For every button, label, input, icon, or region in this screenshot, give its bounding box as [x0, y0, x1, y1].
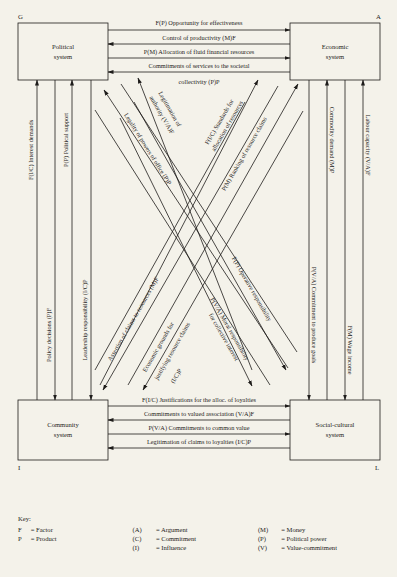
key-meaning: [31, 543, 133, 552]
corner-l: L: [375, 464, 379, 471]
key-meaning: = Political power: [281, 534, 388, 543]
key-row: F = Factor (A) = Argument (M) = Money: [18, 525, 388, 534]
bottom-label-2: Commitments to valued association (V/A)F: [144, 410, 255, 418]
diag-pol-sc-4: [138, 78, 252, 370]
community-system-label-1: Community: [47, 421, 79, 428]
key-row: P = Product (C) = Commitment (P) = Polit…: [18, 534, 388, 543]
left-label-2: Policy decisions (P)F: [45, 308, 53, 362]
key-symbol: F: [18, 525, 31, 534]
key-meaning: = Factor: [31, 525, 133, 534]
key-symbol: (C): [133, 534, 156, 543]
economic-system-box: [290, 23, 380, 80]
corner-a: A: [376, 13, 381, 20]
key-symbol: (V): [258, 543, 281, 552]
left-label-4: Leadership responsibility (I/C)P: [81, 279, 89, 361]
top-label-1: F(P) Opportunity for effectiveness: [156, 19, 243, 27]
right-label-1: P(V/A) Commitment to produce goals: [310, 267, 318, 364]
key-meaning: = Argument: [156, 525, 258, 534]
key-symbol: (A): [133, 525, 156, 534]
bottom-label-1: F(I/C) Justifications for the alloc. of …: [142, 396, 256, 404]
key-meaning: = Value-commitment: [281, 543, 388, 552]
top-label-4: Commitments of services to the societal: [149, 62, 250, 69]
top-label-2: Control of productivity (M)F: [162, 34, 236, 42]
key-row: (I) = Influence (V) = Value-commitment: [18, 543, 388, 552]
key-symbol: P: [18, 534, 31, 543]
interchange-diagram: G A I L Political system Economic system…: [0, 0, 397, 577]
social-cultural-system-label-2: system: [326, 431, 345, 438]
political-system-box: [18, 23, 108, 80]
right-label-4: Labour capacity (V/A)F: [364, 115, 372, 176]
left-label-1: F(I/C) Interest demands: [27, 119, 35, 180]
bottom-label-4: Legitimation of claims to loyalties (I/C…: [147, 438, 252, 446]
key-meaning: = Money: [281, 525, 388, 534]
key-legend: Key: F = Factor (A) = Argument (M) = Mon…: [18, 515, 388, 552]
key-meaning: = Commitment: [156, 534, 258, 543]
social-cultural-system-label-1: Social-cultural: [316, 421, 355, 428]
political-system-label-1: Political: [52, 43, 74, 50]
community-system-label-2: system: [54, 431, 73, 438]
key-symbol: (M): [258, 525, 281, 534]
diag-label-economic-grounds-3: (I/C)P: [169, 367, 184, 385]
key-title: Key:: [18, 515, 388, 522]
right-label-3: F(M) Wage income: [346, 325, 354, 374]
right-label-2: Commodity demand (M)P: [328, 107, 336, 174]
key-meaning: = Influence: [156, 543, 258, 552]
community-system-box: [18, 400, 108, 460]
key-symbol: [18, 543, 31, 552]
left-label-3: P(P) Political support: [62, 113, 70, 167]
corner-i: I: [18, 464, 21, 471]
key-meaning: = Product: [31, 534, 133, 543]
economic-system-label-2: system: [326, 53, 345, 60]
social-cultural-system-box: [290, 400, 380, 460]
corner-g: G: [18, 13, 23, 20]
top-label-4b: collectivity (P)P: [178, 78, 220, 86]
bottom-label-3: P(V/A) Commitments to common value: [148, 424, 249, 432]
economic-system-label-1: Economic: [322, 43, 349, 50]
key-symbol: (I): [133, 543, 156, 552]
political-system-label-2: system: [54, 53, 73, 60]
diag-legality: [95, 89, 105, 133]
top-label-3: P(M) Allocation of fluid financial resou…: [144, 48, 255, 56]
key-symbol: (P): [258, 534, 281, 543]
